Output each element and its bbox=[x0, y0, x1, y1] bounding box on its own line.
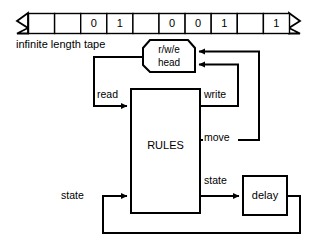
state-out-label-group: state bbox=[203, 174, 236, 187]
state-out-label: state bbox=[204, 174, 227, 186]
write-label: write bbox=[203, 88, 226, 100]
tape-cell bbox=[133, 14, 159, 34]
write-label-group: write bbox=[203, 88, 236, 101]
head-label-line2: head bbox=[158, 57, 180, 68]
rules-box bbox=[131, 89, 200, 213]
rules-block: RULES bbox=[131, 89, 200, 213]
move-label: move bbox=[204, 131, 230, 143]
rules-label: RULES bbox=[147, 139, 184, 151]
turing-machine-diagram: 0 1 0 0 1 1 infinite length tape r/w/e h… bbox=[0, 0, 318, 250]
tape-caption: infinite length tape bbox=[16, 38, 105, 50]
read-write-erase-head-block: r/w/e head bbox=[143, 40, 195, 72]
tape-right-end-icon bbox=[289, 13, 300, 34]
state-in-label: state bbox=[61, 189, 84, 201]
tape-cell-value: 1 bbox=[221, 17, 227, 29]
read-label: read bbox=[97, 88, 118, 100]
delay-block: delay bbox=[243, 176, 287, 215]
tape-cells bbox=[29, 14, 290, 34]
tape-cell bbox=[29, 14, 55, 34]
tape-cell-value: 0 bbox=[91, 17, 97, 29]
head-label-line1: r/w/e bbox=[158, 44, 180, 55]
tape-cell-value: 1 bbox=[117, 17, 123, 29]
diagram-canvas: 0 1 0 0 1 1 infinite length tape r/w/e h… bbox=[0, 0, 318, 250]
tape-cell bbox=[55, 14, 81, 34]
move-label-group: move bbox=[203, 131, 238, 144]
delay-label: delay bbox=[252, 189, 279, 201]
tape-cell-value: 0 bbox=[169, 17, 175, 29]
read-label-group: read bbox=[96, 88, 125, 101]
tape-left-end-icon bbox=[17, 13, 28, 34]
tape-cell-value: 0 bbox=[195, 17, 201, 29]
tape-cell-value: 1 bbox=[273, 17, 279, 29]
tape: 0 1 0 0 1 1 bbox=[17, 13, 300, 34]
tape-cell bbox=[237, 14, 263, 34]
